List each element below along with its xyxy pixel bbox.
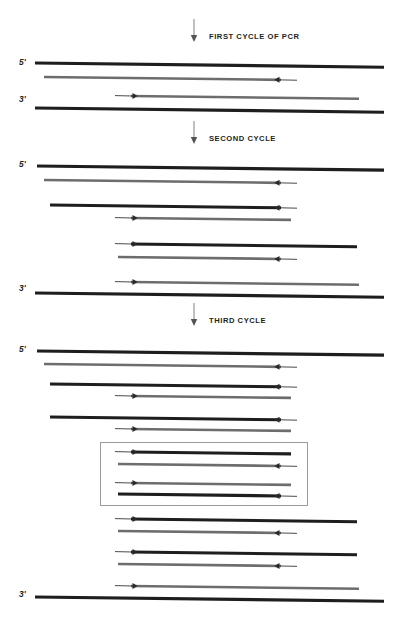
dna-strand-new-new — [44, 364, 297, 370]
dna-strand-template-template — [37, 351, 384, 355]
dna-strand-new-new — [115, 215, 291, 221]
dna-strand-template-template — [50, 205, 297, 211]
dna-strand-new-new — [115, 279, 359, 285]
dna-strand-new-new — [118, 256, 297, 262]
dna-strand-template-template — [50, 417, 297, 423]
strand-layer — [0, 0, 397, 627]
dna-strand-new-new — [44, 180, 297, 186]
end-label-five-prime-0: 5' — [19, 57, 26, 67]
pcr-cycles-diagram: FIRST CYCLE OF PCRSECOND CYCLETHIRD CYCL… — [0, 0, 397, 627]
dna-strand-template-template — [37, 166, 384, 170]
dna-strand-new-new — [118, 563, 297, 569]
dna-strand-new-new — [44, 77, 297, 83]
end-label-five-prime-2: 5' — [19, 159, 26, 169]
dna-strand-template-template — [35, 108, 384, 112]
dna-strand-template-template — [50, 384, 297, 390]
dna-strand-template-template — [115, 549, 357, 555]
dna-strand-new-new — [118, 530, 297, 536]
cycle-arrow-1 — [191, 19, 197, 42]
dna-strand-new-new — [115, 93, 359, 99]
dna-strand-template-template — [35, 63, 384, 67]
cycle-label-3: THIRD CYCLE — [209, 316, 266, 325]
cycle-arrow-3 — [191, 303, 197, 326]
end-label-five-prime-4: 5' — [19, 344, 26, 354]
cycle-label-2: SECOND CYCLE — [209, 134, 276, 143]
cycle-label-1: FIRST CYCLE OF PCR — [209, 32, 299, 41]
cycle-arrow-2 — [191, 121, 197, 144]
end-label-three-prime-3: 3' — [19, 283, 26, 293]
end-label-three-prime-1: 3' — [19, 94, 26, 104]
target-amplicon-highlight-box — [100, 442, 308, 506]
end-label-three-prime-5: 3' — [19, 589, 26, 599]
dna-strand-template-template — [35, 293, 384, 297]
dna-strand-new-new — [115, 426, 291, 432]
dna-strand-template-template — [35, 597, 384, 601]
dna-strand-new-new — [115, 393, 291, 399]
dna-strand-template-template — [115, 516, 357, 522]
dna-strand-template-template — [115, 241, 357, 247]
dna-strand-new-new — [115, 583, 359, 589]
